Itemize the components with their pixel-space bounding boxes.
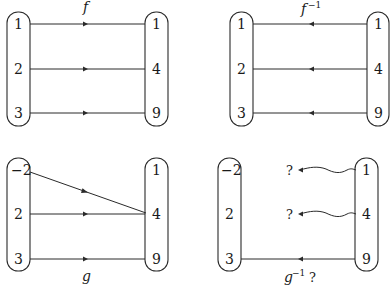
codomain-element: 4: [362, 206, 371, 222]
domain-element: 3: [225, 251, 234, 267]
arrowhead-right-icon: [81, 188, 88, 193]
codomain-element: 1: [374, 16, 383, 32]
domain-element: 2: [14, 206, 23, 222]
arrowhead-left-icon: [309, 111, 314, 116]
domain-element: 3: [14, 251, 23, 267]
function-label: g: [82, 268, 91, 284]
domain-element: 2: [237, 61, 246, 77]
question-mark: ?: [309, 270, 316, 285]
arrowhead-left-icon: [298, 257, 303, 262]
function-label: f: [82, 0, 91, 15]
panel-g: −2 2 3 1 4 9 g: [7, 158, 168, 284]
inverse-superscript: −1: [308, 0, 321, 10]
wavy-mapping-arrow: [300, 167, 356, 172]
arrowhead-right-icon: [83, 22, 88, 27]
unknown-target: ?: [286, 207, 293, 222]
domain-element: −2: [11, 162, 32, 178]
inverse-superscript: −1: [292, 268, 305, 278]
codomain-element: 9: [152, 251, 161, 267]
arrowhead-right-icon: [83, 257, 88, 262]
unknown-target: ?: [286, 163, 293, 178]
arrowhead-left-icon: [309, 22, 314, 27]
panel-f-inverse: f −1 1 2 3 1 4 9: [230, 0, 389, 126]
arrowhead-right-icon: [83, 111, 88, 116]
domain-element: 3: [237, 105, 246, 121]
panel-g-inverse: −2 2 3 1 4 9 ? ? g −1 ?: [218, 158, 378, 285]
codomain-element: 4: [152, 61, 161, 77]
codomain-element: 9: [152, 105, 161, 121]
arrowhead-right-icon: [83, 212, 88, 217]
domain-element: 3: [14, 105, 23, 121]
codomain-element: 4: [152, 206, 161, 222]
function-mapping-diagrams: f 1 2 3 1 4 9 f −1 1 2 3 1 4 9 −2: [0, 0, 390, 286]
domain-element: 2: [14, 61, 23, 77]
codomain-element: 4: [374, 61, 383, 77]
panel-f: f 1 2 3 1 4 9: [7, 0, 168, 126]
domain-element: 1: [237, 16, 246, 32]
domain-element: 1: [14, 16, 23, 32]
arrowhead-right-icon: [83, 67, 88, 72]
codomain-element: 1: [362, 162, 371, 178]
arrowhead-left-icon: [309, 67, 314, 72]
domain-element: 2: [225, 206, 234, 222]
codomain-element: 1: [152, 162, 161, 178]
domain-element: −2: [221, 162, 242, 178]
wavy-mapping-arrow: [300, 211, 356, 216]
codomain-element: 9: [374, 105, 383, 121]
codomain-element: 9: [362, 251, 371, 267]
codomain-element: 1: [152, 16, 161, 32]
arrowhead-left-icon: [298, 168, 303, 173]
arrowhead-left-icon: [298, 212, 303, 217]
